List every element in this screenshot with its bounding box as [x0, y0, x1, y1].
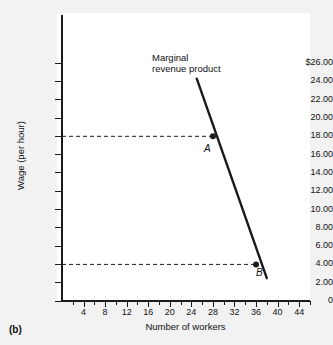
x-axis-title: Number of workers [61, 321, 310, 332]
figure-panel-b: $26.0024.0022.0020.0018.0016.0014.0012.0… [0, 0, 333, 345]
marginal-revenue-product-line [197, 79, 267, 278]
y-axis-title: Wage (per hour) [15, 96, 26, 216]
curve-annotation-line2: revenue product [152, 63, 221, 74]
data-point-a-label: A [204, 143, 211, 154]
curve-annotation-label: Marginal revenue product [152, 52, 221, 74]
data-point-a [210, 133, 216, 139]
data-point-b-label: B [256, 267, 263, 278]
curve-annotation-line1: Marginal [152, 52, 221, 63]
figure-caption: (b) [9, 324, 22, 335]
